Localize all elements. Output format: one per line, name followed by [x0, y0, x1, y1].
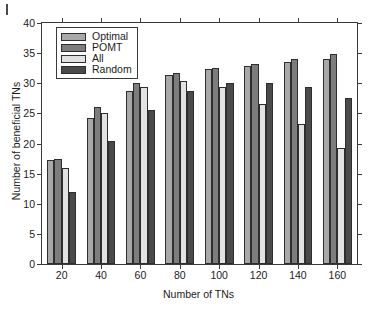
bar-optimal-60 [126, 91, 133, 264]
chart-legend: OptimalPOMTAllRandom [56, 27, 138, 79]
y-axis-tick-right [357, 113, 362, 114]
x-axis-tick-top [219, 18, 220, 23]
bar-all-160 [337, 148, 344, 264]
bar-random-80 [187, 91, 194, 264]
y-axis-tick-right [357, 53, 362, 54]
bar-optimal-120 [244, 66, 251, 264]
bar-optimal-80 [165, 75, 172, 264]
bar-pomt-20 [54, 159, 61, 264]
bar-pomt-100 [212, 68, 219, 264]
y-axis-tick-label: 0 [29, 259, 35, 270]
bar-optimal-40 [87, 118, 94, 264]
x-axis-tick-top [180, 18, 181, 23]
y-axis-tick-right [357, 234, 362, 235]
y-axis-tick [37, 234, 42, 235]
y-axis-tick [37, 174, 42, 175]
y-axis-tick-right [357, 204, 362, 205]
y-axis-tick-label: 5 [29, 229, 35, 240]
y-axis-tick [37, 53, 42, 54]
legend-label-pomt: POMT [92, 42, 122, 53]
figure-canvas: Number of beneficial TNs 051015202530354… [0, 0, 374, 313]
y-axis-tick-label: 10 [23, 199, 35, 210]
y-axis-tick-right [357, 144, 362, 145]
y-axis-tick [37, 144, 42, 145]
y-axis-tick-label: 15 [23, 168, 35, 179]
y-axis-tick-right [357, 83, 362, 84]
y-axis-tick [37, 204, 42, 205]
y-axis-tick [37, 83, 42, 84]
legend-label-random: Random [92, 64, 132, 75]
bar-all-80 [180, 81, 187, 264]
legend-swatch-optimal [61, 33, 86, 41]
y-axis-tick-label: 30 [23, 78, 35, 89]
x-axis-tick-label: 80 [174, 270, 186, 281]
x-axis-tick-top [337, 18, 338, 23]
y-axis-tick-right [357, 264, 362, 265]
y-axis-title: Number of beneficial TNs [10, 61, 22, 221]
bar-random-140 [305, 87, 312, 264]
bar-all-140 [298, 124, 305, 264]
x-axis-tick-label: 120 [250, 270, 268, 281]
y-axis-tick-right [357, 174, 362, 175]
legend-swatch-all [61, 55, 86, 63]
x-axis-tick-label: 100 [210, 270, 228, 281]
x-axis-tick-top [298, 18, 299, 23]
y-axis-tick-label: 25 [23, 108, 35, 119]
x-axis-tick-top [101, 18, 102, 23]
x-axis-tick-top [259, 18, 260, 23]
x-axis-tick-label: 20 [56, 270, 68, 281]
bar-optimal-100 [205, 69, 212, 264]
bar-random-100 [226, 83, 233, 264]
bar-pomt-140 [291, 59, 298, 264]
x-axis-title: Number of TNs [41, 288, 356, 300]
x-axis-tick-label: 60 [135, 270, 147, 281]
bar-random-40 [108, 141, 115, 264]
bar-optimal-20 [47, 160, 54, 264]
x-axis-tick-top [62, 18, 63, 23]
bar-random-60 [148, 110, 155, 264]
x-axis-tick-top [140, 18, 141, 23]
bar-optimal-140 [284, 62, 291, 264]
y-axis-tick-label: 40 [23, 18, 35, 29]
bar-all-120 [259, 104, 266, 264]
x-axis-tick-label: 40 [95, 270, 107, 281]
y-axis-tick-label: 35 [23, 48, 35, 59]
y-axis-tick [37, 264, 42, 265]
legend-label-all: All [92, 53, 104, 64]
bar-optimal-160 [323, 59, 330, 264]
bar-all-60 [140, 87, 147, 264]
x-axis-tick-label: 140 [289, 270, 307, 281]
bar-pomt-40 [94, 107, 101, 264]
y-axis-tick [37, 113, 42, 114]
bar-random-20 [69, 192, 76, 264]
scan-artifact-mark [6, 4, 8, 15]
legend-item-random: Random [61, 64, 132, 75]
legend-swatch-pomt [61, 44, 86, 52]
bar-all-100 [219, 87, 226, 264]
bar-pomt-60 [133, 83, 140, 264]
bar-all-40 [101, 113, 108, 264]
y-axis-tick-right [357, 23, 362, 24]
bar-all-20 [62, 168, 69, 264]
legend-label-optimal: Optimal [92, 31, 128, 42]
y-axis-tick [37, 23, 42, 24]
bar-pomt-160 [330, 54, 337, 264]
legend-swatch-random [61, 66, 86, 74]
x-axis-tick-label: 160 [329, 270, 347, 281]
y-axis-tick-label: 20 [23, 138, 35, 149]
bar-pomt-120 [251, 64, 258, 264]
bar-random-120 [266, 83, 273, 264]
bar-random-160 [345, 98, 352, 264]
bar-pomt-80 [173, 73, 180, 264]
